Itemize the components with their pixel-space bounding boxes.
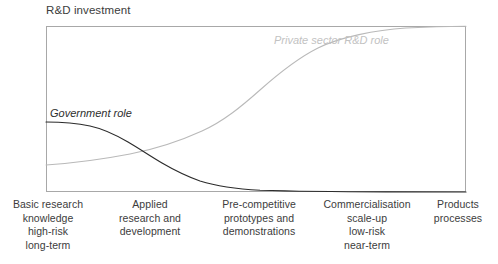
- stage-label-line: high-risk: [2, 225, 94, 239]
- stage-label-products: Products processes: [420, 198, 496, 225]
- government-role-curve: [46, 122, 466, 192]
- stage-label-line: Pre-competitive: [205, 198, 313, 212]
- government-role-label: Government role: [50, 107, 132, 120]
- stage-label-commercialisation: Commercialisation scale-up low-risk near…: [312, 198, 422, 252]
- stage-label-line: long-term: [2, 239, 94, 253]
- stage-label-line: prototypes and: [205, 212, 313, 226]
- private-sector-role-label: Private sector R&D role: [274, 34, 389, 47]
- stage-label-line: Commercialisation: [312, 198, 422, 212]
- stage-label-basic-research: Basic research knowledge high-risk long-…: [2, 198, 94, 252]
- page-title: R&D investment: [46, 3, 130, 17]
- stage-label-applied-research: Applied research and development: [104, 198, 196, 239]
- stage-label-line: development: [104, 225, 196, 239]
- stage-label-line: demonstrations: [205, 225, 313, 239]
- stage-label-line: Basic research: [2, 198, 94, 212]
- stage-label-line: low-risk: [312, 225, 422, 239]
- stage-label-line: scale-up: [312, 212, 422, 226]
- stage-label-row: Basic research knowledge high-risk long-…: [0, 198, 498, 262]
- stage-label-pre-competitive: Pre-competitive prototypes and demonstra…: [205, 198, 313, 239]
- rd-investment-figure: R&D investment Government role Private s…: [0, 0, 498, 264]
- private-sector-curve: [46, 26, 466, 165]
- stage-label-line: Products: [420, 198, 496, 212]
- stage-label-line: near-term: [312, 239, 422, 253]
- stage-label-line: research and: [104, 212, 196, 226]
- stage-label-line: knowledge: [2, 212, 94, 226]
- stage-label-line: processes: [420, 212, 496, 226]
- stage-label-line: Applied: [104, 198, 196, 212]
